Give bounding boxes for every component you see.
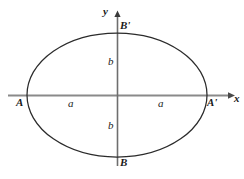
segment-label-a-left: a — [68, 98, 74, 109]
segment-label-b-lower: b — [108, 120, 114, 131]
vertex-label-b-prime: B' — [120, 20, 130, 31]
x-axis-label: x — [234, 93, 240, 104]
segment-label-b-upper: b — [108, 56, 114, 67]
vertex-label-b: B — [120, 157, 127, 168]
vertex-label-a-prime: A' — [207, 97, 217, 108]
segment-label-a-right: a — [158, 98, 164, 109]
y-axis-label: y — [103, 6, 108, 17]
vertex-label-a: A — [16, 97, 23, 108]
ellipse-figure: y x B' B A A' a a b b — [0, 0, 244, 179]
